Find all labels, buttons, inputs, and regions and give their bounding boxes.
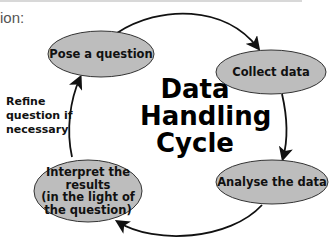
- title-line: Handling: [140, 103, 250, 130]
- note-line: Refine: [6, 95, 73, 109]
- arrow-collect-to-analyse: [282, 94, 287, 158]
- node-pose-a-question: Pose a question: [48, 42, 154, 66]
- title-line: Cycle: [140, 130, 250, 157]
- refine-note: Refine question if necessary: [6, 95, 73, 137]
- diagram-title: Data Handling Cycle: [140, 76, 250, 157]
- title-line: Data: [140, 76, 250, 103]
- node-label: Analyse the data: [217, 176, 327, 189]
- node-label: Pose a question: [49, 48, 152, 61]
- note-line: question if: [6, 109, 73, 123]
- node-label-line: Interpret the: [46, 166, 130, 179]
- node-label-line: (in the light of: [41, 191, 135, 204]
- node-analyse-the-data: Analyse the data: [216, 170, 328, 194]
- note-line: necessary: [6, 123, 73, 137]
- node-interpret-results: Interpret the results (in the light of t…: [34, 163, 142, 219]
- node-label-line: the question): [44, 204, 131, 217]
